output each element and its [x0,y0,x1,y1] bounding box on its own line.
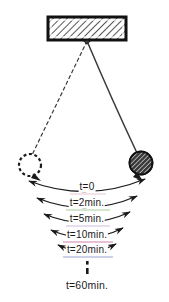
ceiling-support-block [48,17,126,40]
continuation-ellipsis [86,261,89,274]
pendulum-figure: t=0 t=2min. t=5min. t=10min. t=20min. t=… [0,0,169,302]
arc-label-t10: t=10min. [66,229,108,240]
arc-label-t0: t=0 [79,181,96,192]
pendulum-string-right-solid [87,41,137,153]
arc-label-t2: t=2min. [69,197,105,208]
arc-label-t20: t=20min. [66,244,108,255]
pendulum-bob-left-outline [19,154,41,181]
pendulum-bob-right-hatched [130,152,153,182]
pendulum-string-left-dashed [32,41,87,155]
final-time-label: t=60min. [66,279,108,291]
arc-label-t5: t=5min. [69,213,105,224]
pendulum-diagram-svg [0,0,169,302]
